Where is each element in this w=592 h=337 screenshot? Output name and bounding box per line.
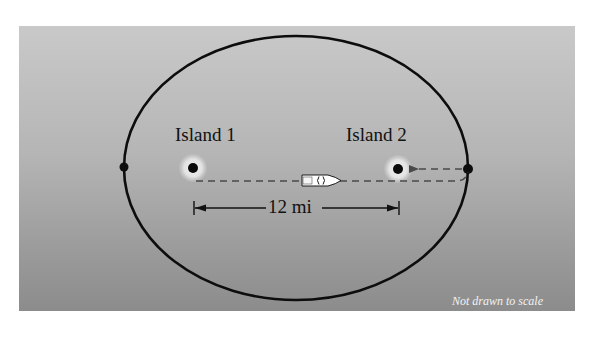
left-vertex-dot (120, 163, 129, 172)
diagram-canvas (0, 0, 592, 337)
not-to-scale-note: Not drawn to scale (452, 294, 543, 309)
island-1-marker (179, 154, 207, 182)
island-1-dot (188, 163, 198, 173)
island-1-label: Island 1 (175, 124, 236, 146)
island-2-marker (384, 155, 412, 183)
right-vertex-dot (463, 164, 473, 174)
island-2-label: Island 2 (346, 124, 407, 146)
boat-icon (302, 175, 341, 186)
island-2-dot (393, 164, 403, 174)
elliptical-boundary (124, 36, 468, 300)
distance-label: 12 mi (268, 196, 312, 218)
